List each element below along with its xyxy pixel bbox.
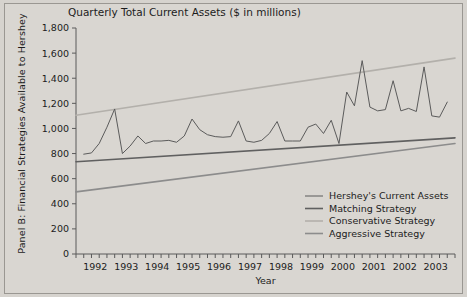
x-tick-label: 2002 [393,261,417,272]
x-tick-label: 1998 [269,261,293,272]
legend-label: Conservative Strategy [329,215,436,226]
figure-panel-b: Panel B: Financial Strategies Available … [0,0,467,297]
x-tick-label: 1995 [176,261,200,272]
series-line [76,138,455,162]
line-chart: 02004006008001,0001,2001,4001,6001,800 1… [0,0,467,297]
series-line [76,144,455,192]
legend-label: Matching Strategy [329,203,417,214]
series-layer [76,58,455,192]
series-line [84,61,448,155]
y-axis: 02004006008001,0001,2001,4001,6001,800 [42,22,76,259]
y-tick-label: 200 [51,223,69,234]
x-tick-label: 1997 [238,261,262,272]
x-tick-label: 2003 [424,261,448,272]
y-tick-label: 1,600 [42,48,69,59]
y-tick-label: 0 [63,248,69,259]
x-tick-label: 1992 [83,261,107,272]
series-line [76,58,455,115]
y-tick-label: 1,800 [42,22,69,33]
axis-titles: Year [254,275,275,286]
chart-legend: Hershey's Current AssetsMatching Strateg… [305,190,449,239]
y-tick-label: 400 [51,198,69,209]
y-tick-label: 1,400 [42,73,69,84]
x-tick-label: 2000 [331,261,355,272]
y-tick-label: 600 [51,173,69,184]
x-tick-label: 1996 [207,261,231,272]
x-axis-title: Year [254,275,275,286]
y-tick-label: 1,200 [42,98,69,109]
x-tick-label: 1999 [300,261,324,272]
x-axis: 1992199319941995199619971998199920002001… [76,254,455,272]
x-tick-label: 1993 [114,261,138,272]
legend-label: Aggressive Strategy [329,228,425,239]
y-tick-label: 1,000 [42,123,69,134]
y-tick-label: 800 [51,148,69,159]
x-tick-label: 2001 [362,261,386,272]
x-tick-label: 1994 [145,261,169,272]
legend-label: Hershey's Current Assets [329,190,449,201]
